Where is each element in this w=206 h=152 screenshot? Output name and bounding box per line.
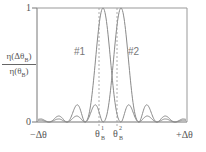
curve-series-2 [38,8,186,122]
axes-frame [32,8,187,122]
y-axis-label: η(ΔθB) η(θB) [2,51,36,78]
y-tick-label-1: 1 [26,3,31,13]
curve-series-1 [38,8,186,122]
y-tick-label-0: 0 [26,117,31,127]
series-label-2: #2 [128,46,139,57]
x-tick-label-right: +Δθ [176,130,193,140]
x-tick-label-theta2: θ2B [113,128,118,139]
x-tick-label-left: −Δθ [30,130,47,140]
x-tick-label-theta1: θ1B [95,128,100,139]
series-label-1: #1 [74,46,85,57]
